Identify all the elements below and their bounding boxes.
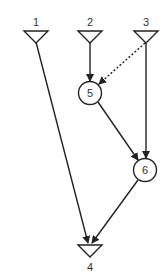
node-3: 3 bbox=[134, 16, 158, 43]
triangle-down-icon bbox=[134, 31, 158, 43]
node-2: 2 bbox=[78, 16, 102, 43]
node-1: 1 bbox=[24, 16, 48, 43]
node-2-label: 2 bbox=[87, 16, 93, 28]
edge-3-to-5 bbox=[99, 43, 145, 84]
node-4-label: 4 bbox=[87, 261, 93, 273]
edge-1-to-4 bbox=[36, 42, 88, 243]
triangle-down-icon bbox=[24, 31, 48, 43]
node-4: 4 bbox=[78, 245, 102, 273]
triangle-down-icon bbox=[78, 31, 102, 43]
edge-5-to-6 bbox=[98, 102, 138, 160]
node-5-label: 5 bbox=[87, 87, 93, 99]
node-5: 5 bbox=[79, 82, 102, 105]
edge-6-to-4 bbox=[92, 180, 138, 243]
node-3-label: 3 bbox=[143, 16, 149, 28]
node-1-label: 1 bbox=[33, 16, 39, 28]
dependency-diagram: 1 2 3 5 6 4 bbox=[0, 0, 167, 278]
node-6: 6 bbox=[134, 159, 157, 182]
triangle-down-icon bbox=[78, 245, 102, 257]
node-6-label: 6 bbox=[142, 164, 148, 176]
